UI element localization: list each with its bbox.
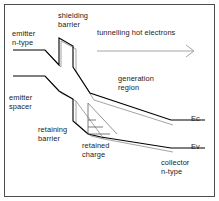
band-diagram-figure: emitter n-type shielding barrier tunnell… [0,0,219,201]
label-tunnelling-hot-electrons: tunnelling hot electrons [97,28,175,37]
label-emitter-n-type: emitter n-type [12,29,35,47]
label-shielding-barrier: shielding barrier [58,11,88,29]
label-collector-n-type: collector n-type [161,158,189,176]
label-generation-region: generation region [118,74,154,92]
label-ev: Ev [191,142,200,151]
label-ec: Ec [191,114,200,123]
label-emitter-spacer: emitter spacer [9,93,32,111]
label-retaining-barrier: retaining barrier [38,125,67,143]
label-retained-charge: retained charge [82,141,110,159]
